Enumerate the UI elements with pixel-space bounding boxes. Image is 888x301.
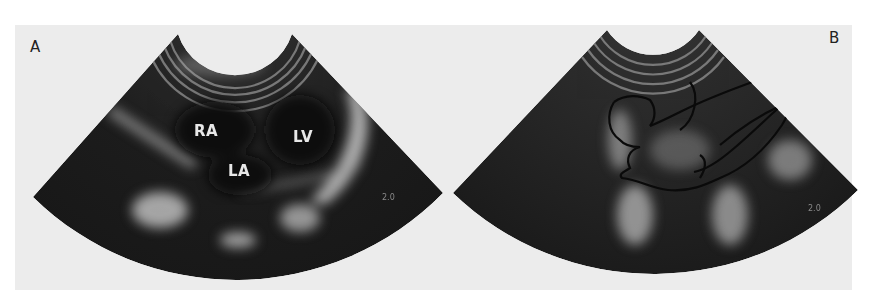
label-left-ventricle: LV <box>293 128 313 146</box>
label-right-atrium: RA <box>194 122 218 140</box>
panel-b-letter: B <box>829 29 839 47</box>
panel-b-scale-mark: 2.0 <box>808 204 821 213</box>
panel-b-ultrasound-fan <box>453 30 858 274</box>
label-left-atrium: LA <box>228 162 250 180</box>
echo-panels-graphic <box>0 0 888 301</box>
panel-a-scale-mark: 2.0 <box>382 193 395 202</box>
panel-a-letter: A <box>30 38 40 56</box>
panel-a-ultrasound-fan <box>33 34 443 280</box>
